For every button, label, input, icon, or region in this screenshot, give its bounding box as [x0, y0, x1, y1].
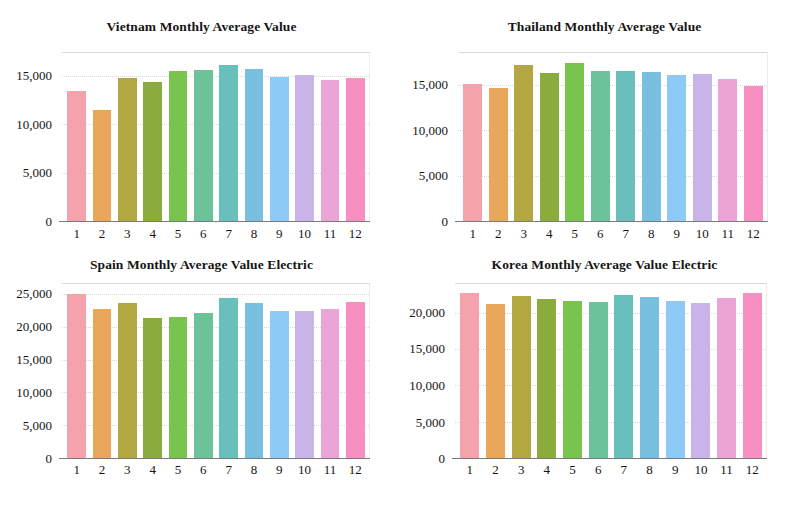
bar-10	[295, 311, 314, 459]
plot-wrap-korea	[455, 283, 767, 459]
bar-4	[540, 73, 559, 222]
y-tick-label: 15,000	[412, 77, 448, 93]
bar-5	[169, 71, 188, 222]
y-tick-label: 15,000	[16, 352, 52, 368]
x-tick-label: 5	[165, 462, 190, 478]
bar-series-thailand	[458, 52, 768, 222]
x-tick-label: 4	[140, 226, 165, 242]
chart-panel-spain: Spain Monthly Average Value Electric 05,…	[0, 255, 403, 509]
bar-slot	[191, 52, 216, 222]
bar-3	[118, 78, 137, 222]
bar-slot	[64, 283, 89, 459]
x-tick-label: 8	[241, 226, 266, 242]
bar-5	[565, 63, 584, 222]
bar-12	[743, 293, 762, 459]
chart-panel-korea: Korea Monthly Average Value Electric 05,…	[403, 255, 806, 509]
x-tick-label: 2	[89, 226, 114, 242]
y-tick-label: 5,000	[419, 168, 448, 184]
x-axis-line-vietnam	[59, 221, 370, 222]
bar-9	[666, 301, 685, 459]
y-axis-labels-korea: 05,00010,00015,00020,000	[403, 283, 451, 459]
bar-slot	[216, 283, 241, 459]
bar-2	[489, 88, 508, 222]
x-tick-label: 11	[714, 462, 740, 478]
chart-panel-vietnam: Vietnam Monthly Average Value 05,00010,0…	[0, 0, 403, 255]
y-tick-label: 0	[46, 451, 53, 467]
x-tick-label: 7	[611, 462, 637, 478]
y-tick-label: 20,000	[16, 319, 52, 335]
bar-slot	[165, 283, 190, 459]
bar-slot	[241, 52, 266, 222]
x-tick-label: 7	[216, 226, 241, 242]
bar-7	[614, 295, 633, 459]
bar-slot	[343, 283, 368, 459]
bar-slot	[140, 283, 165, 459]
bar-5	[169, 317, 188, 459]
x-axis-labels-vietnam: 123456789101112	[62, 226, 370, 242]
x-tick-label: 1	[64, 462, 89, 478]
x-tick-label: 9	[662, 462, 688, 478]
bar-slot	[486, 52, 512, 222]
bar-12	[346, 302, 365, 459]
x-tick-label: 10	[690, 226, 716, 242]
bar-slot	[89, 283, 114, 459]
bar-slot	[343, 52, 368, 222]
x-tick-label: 5	[560, 462, 586, 478]
bar-slot	[165, 52, 190, 222]
y-tick-label: 5,000	[416, 415, 445, 431]
bar-slot	[292, 52, 317, 222]
x-tick-label: 6	[588, 226, 614, 242]
bar-1	[67, 91, 86, 222]
bar-6	[194, 70, 213, 222]
bar-slot	[241, 283, 266, 459]
x-tick-label: 11	[715, 226, 741, 242]
x-tick-label: 9	[664, 226, 690, 242]
x-tick-label: 7	[216, 462, 241, 478]
bar-10	[693, 74, 712, 222]
plot-wrap-vietnam	[62, 52, 370, 222]
bar-2	[93, 309, 112, 459]
x-axis-labels-spain: 123456789101112	[62, 462, 370, 478]
bar-8	[245, 303, 264, 459]
y-tick-label: 20,000	[409, 305, 445, 321]
bar-10	[691, 303, 710, 459]
bar-2	[93, 110, 112, 222]
x-tick-label: 4	[534, 462, 560, 478]
y-tick-label: 10,000	[412, 123, 448, 139]
x-tick-label: 6	[191, 462, 216, 478]
bar-10	[295, 75, 314, 222]
bar-4	[143, 82, 162, 222]
x-axis-line-thailand	[455, 221, 768, 222]
bar-slot	[662, 283, 688, 459]
y-tick-label: 25,000	[16, 286, 52, 302]
bar-slot	[64, 52, 89, 222]
x-tick-label: 3	[115, 462, 140, 478]
x-tick-label: 12	[741, 226, 767, 242]
x-tick-label: 10	[292, 226, 317, 242]
bar-11	[321, 80, 340, 222]
bar-slot	[715, 52, 741, 222]
x-tick-label: 5	[165, 226, 190, 242]
bar-slot	[637, 283, 663, 459]
y-tick-label: 0	[46, 214, 53, 230]
y-tick-label: 15,000	[409, 341, 445, 357]
bar-9	[667, 75, 686, 222]
bar-slot	[216, 52, 241, 222]
chart-title-thailand: Thailand Monthly Average Value	[403, 19, 806, 35]
bar-series-vietnam	[62, 52, 370, 222]
y-axis-labels-thailand: 05,00010,00015,000	[403, 52, 454, 222]
bar-slot	[317, 283, 342, 459]
bar-7	[219, 65, 238, 222]
x-axis-labels-korea: 123456789101112	[455, 462, 767, 478]
bar-5	[563, 301, 582, 459]
bar-slot	[588, 52, 614, 222]
bar-slot	[741, 52, 767, 222]
bar-slot	[115, 283, 140, 459]
x-tick-label: 2	[486, 226, 512, 242]
x-tick-label: 6	[191, 226, 216, 242]
bar-8	[640, 297, 659, 459]
bar-slot	[140, 52, 165, 222]
bar-12	[744, 86, 763, 222]
y-tick-label: 5,000	[23, 165, 52, 181]
x-tick-label: 8	[241, 462, 266, 478]
